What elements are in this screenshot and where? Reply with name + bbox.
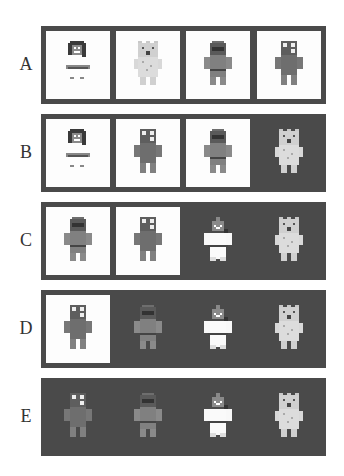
bear-sprite-icon [269,125,309,181]
robot-sprite-icon [128,125,168,181]
hooded-sprite-icon [198,37,238,93]
sprite-cell [186,383,250,451]
row-label: C [16,228,36,252]
sprite-cell [257,383,321,451]
sprite-cell [46,207,110,275]
sprite-cell [186,295,250,363]
sprite-cell [116,119,180,187]
sprite-cell [46,295,110,363]
sprite-cell [116,383,180,451]
hooded-sprite-icon [198,125,238,181]
row-panel [41,378,326,456]
sprite-cell [46,31,110,99]
row-label: D [16,316,36,340]
sprite-cell [116,31,180,99]
sprite-cell [186,31,250,99]
row-label: E [16,404,36,428]
sprite-cell [116,295,180,363]
row-c: C [0,202,344,280]
row-panel [41,202,326,280]
robot-sprite-icon [58,389,98,445]
chef-sprite-icon [198,389,238,445]
sprite-cell [46,119,110,187]
robot-sprite-icon [269,37,309,93]
sprite-cell [46,383,110,451]
sprite-cell [186,119,250,187]
row-b: B [0,114,344,192]
row-a: A [0,26,344,104]
bear-sprite-icon [269,213,309,269]
robot-sprite-icon [58,301,98,357]
row-label: B [16,140,36,164]
row-e: E [0,378,344,456]
hooded-sprite-icon [128,301,168,357]
hooded-sprite-icon [128,389,168,445]
sprite-cell [257,31,321,99]
sprite-cell [257,207,321,275]
row-label: A [16,52,36,76]
sprite-cell [257,119,321,187]
chef-sprite-icon [198,301,238,357]
bear-sprite-icon [128,37,168,93]
row-d: D [0,290,344,368]
sprite-cell [257,295,321,363]
bear-sprite-icon [269,389,309,445]
row-panel [41,290,326,368]
sprite-cell [186,207,250,275]
robot-sprite-icon [128,213,168,269]
girl-sprite-icon [58,37,98,93]
chef-sprite-icon [198,213,238,269]
girl-sprite-icon [58,125,98,181]
sprite-cell [116,207,180,275]
row-panel [41,114,326,192]
hooded-sprite-icon [58,213,98,269]
bear-sprite-icon [269,301,309,357]
row-panel [41,26,326,104]
